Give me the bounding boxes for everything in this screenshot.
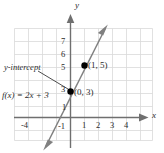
- y-tick-3: 3: [61, 85, 65, 94]
- y-tick-1: 1: [62, 103, 66, 112]
- equation-annotation: f(x) = 2x + 3: [2, 91, 49, 100]
- graph-figure: y x 7 6 5 3 1 -1 -4 1 2 3 4 y-intercept …: [0, 0, 164, 153]
- point-label-0-3: (0, 3): [74, 88, 94, 97]
- x-axis-label: x: [152, 111, 156, 120]
- y-intercept-annotation: y-intercept: [4, 63, 41, 72]
- y-tick-7: 7: [61, 37, 65, 46]
- data-point-1-5: [81, 62, 87, 68]
- y-tick-5: 5: [61, 63, 65, 72]
- point-label-1-5: (1, 5): [88, 61, 108, 70]
- coordinate-plane: [0, 0, 164, 153]
- data-point-0-3: [67, 88, 73, 94]
- y-tick-neg1: -1: [58, 122, 65, 131]
- x-tick-1: 1: [82, 121, 86, 130]
- x-tick-2: 2: [96, 121, 100, 130]
- y-tick-6: 6: [61, 50, 65, 59]
- x-tick-3: 3: [110, 121, 114, 130]
- y-axis-label: y: [75, 1, 79, 10]
- x-tick-neg4: -4: [21, 121, 28, 130]
- x-tick-4: 4: [124, 121, 128, 130]
- y-axis: [67, 14, 75, 148]
